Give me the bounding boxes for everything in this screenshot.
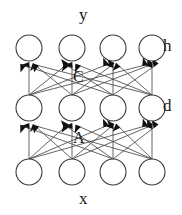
node-h-3 [100, 35, 126, 61]
layer-d-nodes [16, 95, 165, 121]
node-x-3 [100, 159, 126, 185]
layer-x-nodes [16, 159, 165, 185]
edges-x-to-d [23, 126, 156, 159]
node-h-4 [139, 35, 165, 61]
input-label-x: x [79, 190, 88, 207]
weight-label-a: A [73, 130, 85, 146]
node-x-4 [139, 159, 165, 185]
layer-label-d: d [163, 97, 172, 114]
node-d-3 [100, 95, 126, 121]
node-x-1 [16, 159, 42, 185]
weight-label-c: C [73, 69, 84, 85]
edges-d-to-h [23, 65, 156, 95]
figure-canvas: y h d x C A [0, 0, 182, 215]
node-h-1 [16, 35, 42, 61]
network-diagram-svg [0, 0, 182, 215]
node-d-2 [59, 95, 85, 121]
layer-h-nodes [16, 35, 165, 61]
layer-label-h: h [163, 37, 172, 54]
output-label-y: y [79, 6, 88, 23]
node-d-4 [139, 95, 165, 121]
node-d-1 [16, 95, 42, 121]
node-x-2 [59, 159, 85, 185]
node-h-2 [59, 35, 85, 61]
